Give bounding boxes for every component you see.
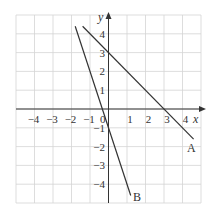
y-tick-label: −2 <box>93 141 105 153</box>
y-tick-label: −4 <box>93 178 105 190</box>
x-axis-arrow-icon <box>199 106 206 112</box>
line-a-label: A <box>187 141 196 155</box>
y-tick-label: 1 <box>100 84 106 96</box>
x-tick-label: 1 <box>127 113 133 125</box>
x-tick-label: −3 <box>46 113 58 125</box>
x-tick-label: −2 <box>65 113 77 125</box>
y-tick-label: 4 <box>100 28 106 40</box>
coordinate-graph: −4−3−2−112344321−1−2−3−4 x y 0 A B <box>0 0 213 216</box>
y-tick-label: −3 <box>93 159 105 171</box>
x-tick-label: −4 <box>28 113 40 125</box>
y-axis-label: y <box>97 10 104 24</box>
x-axis-label: x <box>192 112 199 126</box>
y-tick-label: 2 <box>100 65 106 77</box>
y-axis-arrow-icon <box>106 12 112 19</box>
line-b-label: B <box>133 190 141 204</box>
x-tick-label: 2 <box>146 113 152 125</box>
x-tick-label: 4 <box>183 113 189 125</box>
